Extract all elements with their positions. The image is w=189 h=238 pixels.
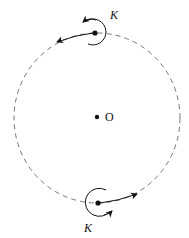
bottom-body: K	[83, 188, 137, 235]
center-point	[95, 115, 99, 119]
center-label: O	[105, 110, 114, 124]
bottom-velocity-arrow-icon	[100, 194, 137, 203]
top-body-dot	[92, 30, 97, 35]
bottom-body-dot	[95, 200, 100, 205]
bottom-spin-label: K	[83, 221, 93, 235]
orbit-diagram: O K K	[0, 0, 189, 238]
top-velocity-arrow-icon	[57, 33, 93, 42]
top-spin-label: K	[109, 8, 119, 22]
